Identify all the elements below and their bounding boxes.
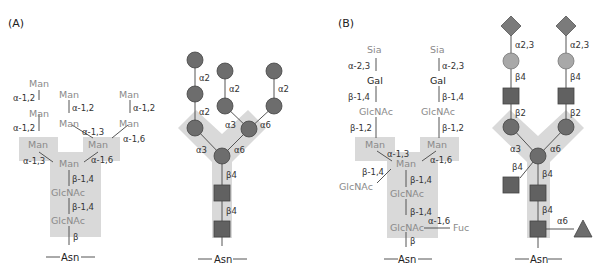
mannose-icon: [217, 63, 233, 79]
residue-man-core: Man: [396, 158, 416, 169]
linkage-label: β2: [515, 108, 526, 118]
mannose-icon: [558, 119, 574, 135]
panel-b-label: (B): [338, 17, 354, 30]
residue-glcnac: GlcNAc: [390, 222, 424, 233]
linkage-label: α6: [234, 145, 245, 155]
linkage-label: β4: [542, 205, 553, 215]
glcnac-icon: [530, 221, 546, 237]
linkage-label: α2,3: [570, 40, 589, 50]
linkage-label: α3: [225, 120, 236, 130]
linkage-label: α-1,3: [387, 149, 409, 159]
linkage-label: β-1,2: [350, 123, 372, 133]
residue-asn: Asn: [530, 254, 548, 265]
residue-fuc: Fuc: [453, 222, 469, 233]
linkage-label: α2: [199, 107, 210, 117]
residue-glcnac: GlcNAc: [51, 215, 85, 226]
linkage-label: α6: [550, 144, 561, 154]
residue-man: Man: [427, 139, 447, 150]
residue-man: Man: [29, 108, 49, 119]
residue-gal: Gal: [430, 75, 446, 86]
panel-a-label: (A): [8, 17, 24, 30]
glcnac-icon: [503, 88, 519, 104]
sialic-acid-icon: [501, 16, 521, 36]
mannose-icon: [187, 86, 203, 102]
linkage-label: α-2,3: [348, 61, 370, 71]
residue-gal: Gal: [367, 75, 383, 86]
linkage-label: α2: [229, 84, 240, 94]
glycan-diagram: (A) Man Man Man Man Man: [0, 0, 603, 273]
linkage-label: α-1,3: [23, 156, 45, 166]
linkage-label: β4: [515, 72, 526, 82]
residue-man: Man: [29, 78, 49, 89]
linkage-label: α-1,2: [13, 123, 35, 133]
linkage-label: β-1,4: [362, 167, 384, 177]
linkage-label: β-1,4: [72, 202, 94, 212]
linkage-label: β4: [570, 72, 581, 82]
panel-a: (A) Man Man Man Man Man: [8, 17, 289, 265]
residue-man: Man: [59, 118, 79, 129]
linkage-label: α-1,2: [13, 93, 35, 103]
linkage-label: α-1,6: [91, 155, 113, 165]
glcnac-bisecting-icon: [503, 177, 519, 193]
mannose-icon: [187, 52, 203, 68]
linkage-label: β: [73, 232, 78, 242]
residue-asn: Asn: [398, 254, 416, 265]
linkage-label: α2: [278, 84, 289, 94]
residue-glcnac-bisecting: GlcNAc: [339, 181, 373, 192]
residue-man: Man: [119, 89, 139, 100]
linkage-label: α6: [557, 216, 568, 226]
residue-glcnac: GlcNAc: [390, 188, 424, 199]
residue-man: Man: [88, 139, 108, 150]
linkage-label: β-1,4: [348, 92, 370, 102]
residue-asn: Asn: [214, 254, 232, 265]
residue-man-core: Man: [59, 158, 79, 169]
linkage-label: α-1,6: [123, 134, 145, 144]
linkage-label: β-1,2: [442, 123, 464, 133]
linkage-label: β-1,4: [410, 175, 432, 185]
glcnac-icon: [558, 88, 574, 104]
mannose-icon: [266, 98, 282, 114]
sialic-acid-icon: [556, 16, 576, 36]
glcnac-icon: [214, 221, 230, 237]
linkage-label: β2: [570, 108, 581, 118]
linkage-label: β-1,4: [442, 92, 464, 102]
mannose-icon: [217, 98, 233, 114]
linkage-label: α3: [510, 144, 521, 154]
linkage-label: β4: [226, 206, 237, 216]
residue-glcnac: GlcNAc: [51, 187, 85, 198]
glcnac-icon: [214, 185, 230, 201]
glcnac-icon: [530, 185, 546, 201]
galactose-icon: [503, 53, 519, 69]
residue-man: Man: [365, 139, 385, 150]
residue-sia: Sia: [430, 44, 445, 55]
linkage-label: α-1,3: [82, 127, 104, 137]
residue-man: Man: [59, 89, 79, 100]
fucose-icon: [574, 220, 592, 237]
mannose-icon: [187, 120, 203, 136]
linkage-label: β4: [226, 170, 237, 180]
residue-glcnac: GlcNAc: [421, 106, 455, 117]
linkage-label: β4: [512, 162, 523, 172]
mannose-icon: [530, 148, 546, 164]
linkage-label: α3: [196, 145, 207, 155]
residue-asn: Asn: [61, 252, 79, 263]
linkage-label: α6: [260, 120, 271, 130]
linkage-label: α-1,2: [133, 103, 155, 113]
linkage-label: α-2,3: [442, 61, 464, 71]
residue-man: Man: [119, 118, 139, 129]
linkage-label: β: [410, 236, 415, 246]
linkage-label: α2: [199, 73, 210, 83]
linkage-label: α-1,6: [430, 155, 452, 165]
mannose-icon: [241, 121, 257, 137]
residue-glcnac: GlcNAc: [359, 106, 393, 117]
mannose-icon: [503, 119, 519, 135]
linkage-label: α2,3: [515, 40, 534, 50]
linkage-label: β-1,4: [72, 174, 94, 184]
panel-b: (B) Sia Sia Gal Gal GlcNAc: [338, 16, 592, 265]
mannose-icon: [266, 63, 282, 79]
residue-man: Man: [28, 139, 48, 150]
linkage-label: β4: [542, 169, 553, 179]
linkage-label: α-1,2: [72, 103, 94, 113]
linkage-label: α-1,6: [428, 216, 450, 226]
galactose-icon: [558, 53, 574, 69]
